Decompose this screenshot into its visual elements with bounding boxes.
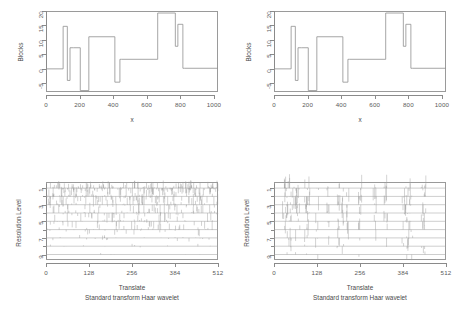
panel-top-right: Blocks -50510152002004006008001000x: [228, 0, 457, 157]
wavelet-coefficients: [228, 157, 457, 313]
blocks-step-path: [0, 0, 229, 157]
blocks-step-path: [228, 0, 457, 157]
panel-bottom-left: Resolution Level 135790128256384512Trans…: [0, 157, 228, 313]
wavelet-coefficients: [0, 157, 229, 313]
panel-top-left: Blocks -50510152002004006008001000x: [0, 0, 228, 157]
figure-canvas: Blocks -50510152002004006008001000x Bloc…: [0, 0, 457, 313]
panel-bottom-right: Resolution Level 135790128256384512Trans…: [228, 157, 457, 313]
